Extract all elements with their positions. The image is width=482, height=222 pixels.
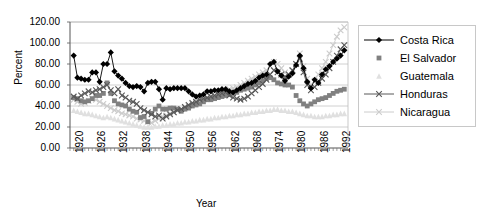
data-point xyxy=(93,69,99,75)
data-point xyxy=(294,93,299,98)
legend-label: Guatemala xyxy=(396,70,454,82)
data-point xyxy=(97,79,103,85)
data-point xyxy=(341,111,347,117)
data-point xyxy=(71,53,77,59)
legend-marker xyxy=(362,32,396,48)
legend-label: Honduras xyxy=(396,88,448,100)
data-point xyxy=(156,86,162,92)
legend-item[interactable]: Nicaragua xyxy=(362,103,471,121)
data-point xyxy=(376,73,382,79)
data-point xyxy=(327,51,333,57)
data-point xyxy=(152,79,158,85)
legend-marker xyxy=(362,68,396,84)
data-point xyxy=(377,56,382,61)
legend-item[interactable]: Honduras xyxy=(362,85,471,103)
data-point xyxy=(104,61,110,67)
data-point xyxy=(376,37,382,43)
data-point xyxy=(334,34,340,40)
legend-marker xyxy=(362,50,396,66)
data-point xyxy=(108,49,114,55)
legend-item[interactable]: Guatemala xyxy=(362,67,471,85)
data-point xyxy=(115,86,121,92)
legend-marker xyxy=(362,86,396,102)
chart-figure: Percent Year 0.0020.0040.0060.0080.00100… xyxy=(0,0,482,222)
series-line xyxy=(74,27,345,123)
chart-legend: Costa RicaEl SalvadorGuatemalaHondurasNi… xyxy=(358,25,476,127)
data-point xyxy=(290,85,295,90)
data-point xyxy=(341,24,347,30)
series-line xyxy=(74,45,345,119)
legend-label: Nicaragua xyxy=(396,106,450,118)
data-point xyxy=(85,77,91,83)
data-point xyxy=(160,97,166,103)
data-point xyxy=(297,53,303,59)
legend-item[interactable]: Costa Rica xyxy=(362,31,471,49)
legend-marker xyxy=(362,104,396,120)
legend-item[interactable]: El Salvador xyxy=(362,49,471,67)
data-point xyxy=(145,119,150,124)
legend-label: El Salvador xyxy=(396,52,456,64)
data-point xyxy=(342,87,347,92)
legend-label: Costa Rica xyxy=(396,34,454,46)
